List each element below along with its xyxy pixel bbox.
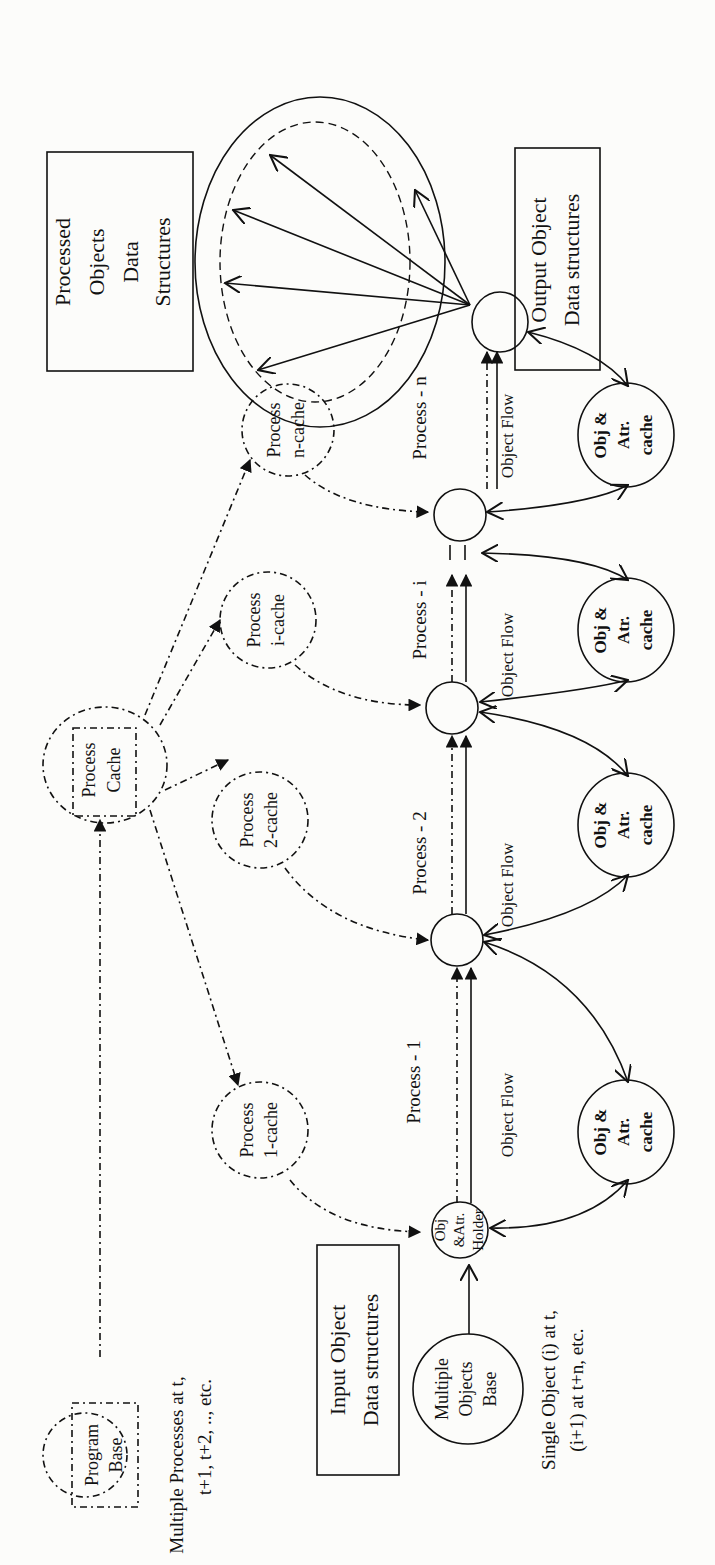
svg-text:Obj: Obj xyxy=(432,1219,448,1242)
svg-text:Atr.: Atr. xyxy=(614,616,633,644)
output-object-box: Output Object Data structures xyxy=(515,148,600,370)
process-1-label: Process - 1 xyxy=(403,1040,424,1123)
program-base-line2: Base xyxy=(106,1438,126,1473)
svg-text:Obj &: Obj & xyxy=(591,1109,610,1156)
svg-text:Input Object: Input Object xyxy=(325,1305,350,1416)
svg-text:Atr.: Atr. xyxy=(614,421,633,449)
process-node-i xyxy=(426,682,478,734)
single-object-note-line1: Single Object (i) at t, xyxy=(538,1310,560,1470)
process-i-flow xyxy=(450,545,466,682)
svg-text:Atr.: Atr. xyxy=(614,811,633,839)
svg-text:Data structures: Data structures xyxy=(358,1294,383,1427)
object-flow-label-n: Object Flow xyxy=(498,393,517,478)
svg-text:Data: Data xyxy=(118,241,143,283)
object-flow-label-2: Object Flow xyxy=(498,842,517,927)
output-node xyxy=(472,292,528,352)
program-base-line1: Program xyxy=(82,1424,102,1486)
svg-text:Data structures: Data structures xyxy=(559,194,584,327)
process-node-n xyxy=(434,489,486,541)
1cache-to-holder-arrow xyxy=(290,1180,420,1232)
process-1-cache-node: Process 1-cache xyxy=(212,1082,308,1178)
multiple-objects-base-node: Multiple Objects Base xyxy=(413,1334,523,1444)
cache-to-ncache-arrow xyxy=(145,460,250,715)
svg-text:i-cache: i-cache xyxy=(268,594,288,646)
svg-text:Multiple: Multiple xyxy=(432,1358,452,1420)
svg-text:cache: cache xyxy=(637,609,656,650)
obj-atr-cache-i: Obj & Atr. cache xyxy=(578,578,674,682)
icache-to-nodei-arrow xyxy=(295,665,420,705)
process-n-flow xyxy=(487,352,497,489)
svg-text:Process: Process xyxy=(237,1103,257,1158)
object-flow-label-1: Object Flow xyxy=(498,1072,517,1157)
cache-to-2cache-arrow xyxy=(165,760,228,790)
svg-text:cache: cache xyxy=(637,804,656,845)
multiple-processes-note-line2: t+1, t+2, .., etc. xyxy=(194,1379,215,1495)
input-object-box: Input Object Data structures xyxy=(317,1245,399,1475)
process-cache-node: Process Cache xyxy=(43,707,167,823)
obj-atr-holder-node: Obj &Atr. Holder xyxy=(432,1202,488,1258)
svg-text:1-cache: 1-cache xyxy=(261,1102,281,1158)
svg-text:cache: cache xyxy=(637,414,656,455)
2cache-to-node2-arrow xyxy=(285,868,428,940)
cache-to-icache-arrow xyxy=(160,620,220,725)
process-node-2 xyxy=(431,914,483,966)
multiple-processes-note-line1: Multiple Processes at t, xyxy=(166,1376,187,1553)
svg-text:Objects: Objects xyxy=(84,228,109,295)
process-i-cache-node: Process i-cache xyxy=(220,572,316,668)
diagram-canvas: Program Base Multiple Processes at t, t+… xyxy=(0,0,715,1565)
process-cache-line2: Cache xyxy=(104,748,124,793)
svg-text:2-cache: 2-cache xyxy=(261,792,281,848)
svg-text:Output Object: Output Object xyxy=(526,197,551,322)
svg-text:Holder: Holder xyxy=(470,1209,486,1251)
obj-atr-cache-1: Obj & Atr. cache xyxy=(578,1080,674,1184)
process-cache-line1: Process xyxy=(79,743,99,798)
svg-text:Obj &: Obj & xyxy=(591,802,610,849)
svg-text:Base: Base xyxy=(480,1372,500,1407)
svg-text:n-cache: n-cache xyxy=(288,402,308,458)
svg-text:Process: Process xyxy=(244,593,264,648)
obj-atr-cache-2: Obj & Atr. cache xyxy=(578,773,674,877)
cache-to-1cache-arrow xyxy=(150,810,238,1085)
processed-objects-box: Processed Objects Data Structures xyxy=(47,152,193,371)
process-2-cache-node: Process 2-cache xyxy=(212,772,308,868)
svg-text:cache: cache xyxy=(637,1111,656,1152)
process-n-cache-node: Process n-cache xyxy=(242,384,334,476)
process-2-label: Process - 2 xyxy=(409,811,430,894)
svg-text:Obj &: Obj & xyxy=(591,412,610,459)
ncache-to-noden-arrow xyxy=(305,475,428,512)
process-i-label: Process - i xyxy=(409,580,430,659)
single-object-note-line2: (i+1) at t+n, etc. xyxy=(566,1328,588,1451)
process-flow-diagram: Program Base Multiple Processes at t, t+… xyxy=(0,0,715,1565)
svg-text:Atr.: Atr. xyxy=(614,1118,633,1146)
process-2-flow xyxy=(452,736,466,914)
svg-text:&Atr.: &Atr. xyxy=(451,1213,467,1248)
svg-text:Process: Process xyxy=(237,793,257,848)
object-flow-label-i: Object Flow xyxy=(498,612,517,697)
svg-text:Objects: Objects xyxy=(456,1362,476,1417)
obj-atr-cache-n: Obj & Atr. cache xyxy=(578,383,674,487)
svg-text:Structures: Structures xyxy=(150,217,175,306)
svg-text:Obj &: Obj & xyxy=(591,607,610,654)
svg-text:Processed: Processed xyxy=(50,218,75,306)
program-base-node: Program Base xyxy=(43,1403,138,1507)
process-1-flow xyxy=(457,968,471,1203)
process-n-label: Process - n xyxy=(409,376,430,460)
